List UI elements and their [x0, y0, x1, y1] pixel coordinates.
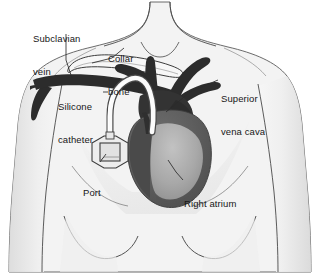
anatomy-figure: Subclavian vein Collar bone Silicone cat…	[0, 0, 320, 274]
label-superior-vena-cava-line2: vena cava	[221, 126, 265, 137]
label-collar-bone-line2: bone	[108, 86, 133, 97]
label-superior-vena-cava-line1: Superior	[221, 93, 265, 104]
label-silicone-catheter: Silicone catheter	[58, 79, 93, 167]
label-superior-vena-cava: Superior vena cava	[221, 71, 265, 159]
label-right-atrium: Right atrium	[184, 176, 236, 231]
label-collar-bone-line1: Collar	[108, 53, 133, 64]
label-subclavian-vein-line2: vein	[33, 66, 80, 77]
label-port: Port	[83, 165, 101, 220]
label-port-line1: Port	[83, 187, 101, 198]
label-right-atrium-line1: Right atrium	[184, 198, 236, 209]
label-silicone-catheter-line1: Silicone	[58, 101, 93, 112]
label-silicone-catheter-line2: catheter	[58, 134, 93, 145]
label-collar-bone: Collar bone	[108, 31, 133, 119]
label-subclavian-vein-line1: Subclavian	[33, 33, 80, 44]
port-connector	[106, 132, 114, 139]
